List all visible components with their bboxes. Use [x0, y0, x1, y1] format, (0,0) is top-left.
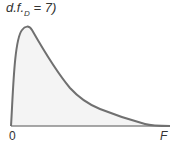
- density-area: [11, 27, 170, 126]
- x-tick-zero: 0: [9, 129, 16, 143]
- x-axis-label-f: F: [160, 129, 167, 143]
- f-distribution-plot: [0, 0, 178, 149]
